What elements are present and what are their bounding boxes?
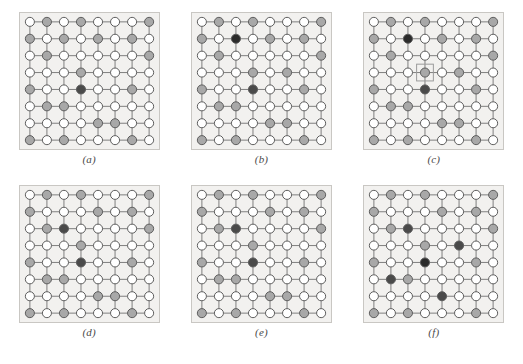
lattice-node [42,119,51,128]
lattice-node [370,119,379,128]
lattice-node [214,17,223,26]
lattice-node [404,224,413,233]
lattice-node [231,241,240,250]
lattice-node [387,85,396,94]
lattice-node [438,207,447,216]
lattice-node [76,119,85,128]
lattice-node [25,136,34,145]
lattice-node [283,34,292,43]
lattice-node [404,119,413,128]
lattice-box-f [363,185,504,323]
lattice-node [404,258,413,267]
lattice-node [472,207,481,216]
lattice-node [93,190,102,199]
lattice-node [387,190,396,199]
lattice-node [489,224,498,233]
lattice-node [25,34,34,43]
lattice-node [387,275,396,284]
lattice-node [421,190,430,199]
lattice-node [404,275,413,284]
lattice-node [455,17,464,26]
lattice-node [42,85,51,94]
lattice-node [144,119,153,128]
lattice-nodes [197,190,325,317]
lattice-node [421,68,430,77]
lattice-node [370,241,379,250]
lattice-box-a [19,12,160,150]
lattice-node [231,17,240,26]
lattice-node [231,207,240,216]
lattice-graph-d [20,186,159,322]
lattice-node [317,275,326,284]
lattice-node [404,85,413,94]
lattice-node [317,34,326,43]
lattice-node [455,190,464,199]
lattice-panel-b: (b) [180,12,342,179]
lattice-node [404,51,413,60]
lattice-node [42,224,51,233]
lattice-node [283,85,292,94]
lattice-node [110,136,119,145]
lattice-node [59,292,68,301]
figure-root: (a)(b)(c)(d)(e)(f) [0,0,523,364]
lattice-node [59,136,68,145]
lattice-node [317,258,326,267]
lattice-node [231,68,240,77]
lattice-graph-e [192,186,331,322]
lattice-node [472,224,481,233]
lattice-node [438,258,447,267]
lattice-node [93,224,102,233]
panel-label-d: (d) [82,327,95,338]
lattice-node [421,85,430,94]
lattice-node [489,119,498,128]
lattice-panel-grid: (a)(b)(c)(d)(e)(f) [8,12,515,352]
lattice-node [59,207,68,216]
lattice-node [300,258,309,267]
lattice-node [283,51,292,60]
lattice-node [197,190,206,199]
lattice-node [317,224,326,233]
lattice-box-d [19,185,160,323]
lattice-node [489,136,498,145]
lattice-node [489,309,498,318]
lattice-node [370,34,379,43]
lattice-node [59,190,68,199]
lattice-node [42,136,51,145]
lattice-node [248,258,257,267]
lattice-node [144,34,153,43]
lattice-node [93,241,102,250]
lattice-node [472,119,481,128]
lattice-node [455,241,464,250]
lattice-node [110,102,119,111]
lattice-node [300,207,309,216]
lattice-node [144,207,153,216]
lattice-node [127,102,136,111]
lattice-node [300,85,309,94]
lattice-node [283,292,292,301]
lattice-node [127,85,136,94]
lattice-node [248,119,257,128]
lattice-node [455,102,464,111]
lattice-box-e [191,185,332,323]
lattice-node [76,190,85,199]
lattice-node [421,224,430,233]
lattice-node [489,34,498,43]
lattice-panel-e: (e) [180,185,342,352]
lattice-node [197,292,206,301]
lattice-node [387,224,396,233]
lattice-node [265,34,274,43]
lattice-node [59,275,68,284]
lattice-node [42,275,51,284]
lattice-node [489,17,498,26]
lattice-node [370,224,379,233]
lattice-node [25,119,34,128]
lattice-node [300,17,309,26]
lattice-node [59,258,68,267]
lattice-node [421,241,430,250]
lattice-node [93,207,102,216]
lattice-node [93,102,102,111]
lattice-node [387,207,396,216]
lattice-node [300,34,309,43]
lattice-node [370,85,379,94]
lattice-node [300,224,309,233]
